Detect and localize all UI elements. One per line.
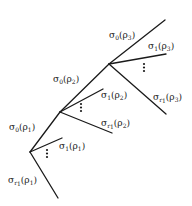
label-sigmar1-rho2: σr1(ρ2) xyxy=(101,118,130,130)
trunk-segment-rho3 xyxy=(109,20,165,64)
branch-sigmar1-rho3 xyxy=(109,64,166,114)
label-sigmar1-rho1: σr1(ρ1) xyxy=(8,175,37,187)
branch-sigma1-rho2 xyxy=(60,89,103,112)
label-sigma0-rho3: σ0(ρ3) xyxy=(109,30,135,41)
label-sigma0-rho2: σ0(ρ2) xyxy=(53,74,79,85)
label-sigma1-rho1: σ1(ρ1) xyxy=(59,141,85,152)
label-sigma1-rho3: σ1(ρ3) xyxy=(148,41,174,52)
branch-sigma1-rho3 xyxy=(109,54,166,64)
label-sigma1-rho2: σ1(ρ2) xyxy=(101,90,127,101)
ellipsis-rho2 xyxy=(80,103,82,112)
trunk-segment-rho2 xyxy=(60,64,109,112)
ellipsis-rho3 xyxy=(143,63,145,72)
label-sigmar1-rho3: σr1(ρ3) xyxy=(153,92,182,104)
ellipsis-rho1 xyxy=(46,149,48,158)
branching-diagram: σ0(ρ3) σ1(ρ3) σr1(ρ3) σ0(ρ2) σ1(ρ2) σr1(… xyxy=(0,0,192,206)
label-sigma0-rho1: σ0(ρ1) xyxy=(9,122,35,133)
